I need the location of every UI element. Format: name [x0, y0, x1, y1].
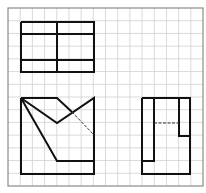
visible-edge — [142, 98, 154, 161]
top-view — [21, 22, 94, 72]
visible-edge — [179, 98, 190, 136]
hidden-edge — [72, 112, 94, 135]
projection-drawing — [0, 0, 206, 193]
